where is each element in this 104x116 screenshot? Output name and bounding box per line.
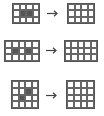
grid-cell	[74, 81, 81, 88]
grid-cell	[74, 95, 81, 102]
grid-cell	[88, 17, 95, 23]
grid-cell	[74, 88, 81, 95]
grid-cell	[32, 88, 39, 95]
grid-cell	[81, 101, 88, 108]
grid-cell	[32, 81, 39, 88]
grid-cell	[19, 48, 26, 55]
grid-cell	[87, 95, 94, 102]
grid-cell	[87, 81, 94, 88]
grid-cell	[33, 17, 40, 23]
right-arrow-icon	[46, 47, 57, 54]
right-arrow-icon	[47, 10, 58, 17]
grid-cell	[32, 48, 39, 55]
grid-cell	[25, 41, 32, 48]
grid-cell	[19, 54, 26, 61]
input-grid-1	[12, 3, 40, 24]
grid-cell	[87, 101, 94, 108]
grid-cell	[91, 54, 97, 61]
right-arrow-icon	[46, 92, 57, 99]
grid-cell	[12, 54, 19, 61]
grid-cell-filled	[25, 48, 32, 55]
grid-cell	[67, 81, 74, 88]
grid-cell	[81, 95, 88, 102]
grid-cell	[5, 48, 12, 55]
input-grid-3	[11, 80, 39, 109]
input-grid-2	[4, 40, 40, 62]
grid-cell	[67, 95, 74, 102]
grid-cell	[19, 41, 26, 48]
grid-cell	[81, 81, 88, 88]
grid-cell	[87, 88, 94, 95]
grid-cell	[32, 41, 39, 48]
grid-cell	[74, 101, 81, 108]
grid-cell	[32, 101, 39, 108]
grid-cell	[32, 95, 39, 102]
grid-cell	[81, 88, 88, 95]
grid-cell	[32, 54, 39, 61]
grid-cell	[67, 88, 74, 95]
grid-cell	[67, 101, 74, 108]
grid-cell	[12, 41, 19, 48]
grid-cell	[5, 54, 12, 61]
grid-cell	[5, 41, 12, 48]
output-grid-2	[64, 40, 98, 62]
grid-cell	[91, 48, 97, 55]
output-grid-3	[66, 80, 95, 109]
grid-cell	[91, 41, 97, 48]
grid-cell	[25, 54, 32, 61]
grid-cell-filled	[12, 48, 19, 55]
output-grid-1	[67, 3, 95, 24]
